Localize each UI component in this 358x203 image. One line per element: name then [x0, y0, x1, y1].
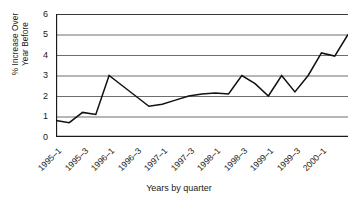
x-axis-title: Years by quarter	[0, 183, 358, 193]
x-axis-tick-labels: 1995–11995–31996–11996–31997–11997–31998…	[0, 0, 358, 203]
line-chart: % Increase Over Year Before 0123456 1995…	[0, 0, 358, 203]
